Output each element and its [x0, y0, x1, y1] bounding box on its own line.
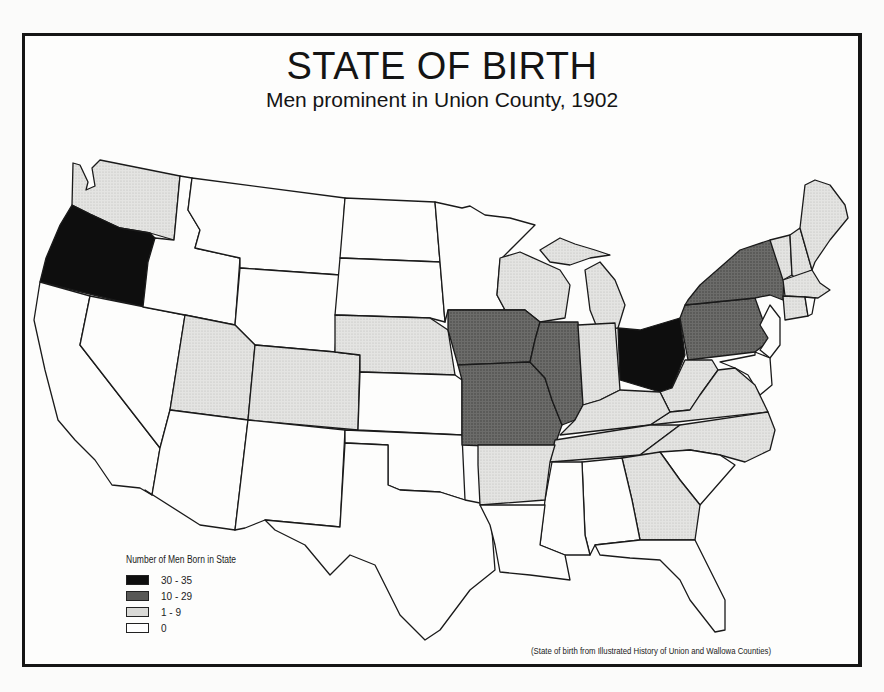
legend: Number of Men Born in State 30 - 35 10 -…: [126, 554, 256, 636]
state-colorado: [248, 345, 360, 430]
state-florida: [595, 540, 725, 632]
legend-label: 1 - 9: [161, 607, 181, 618]
legend-item-0: 0: [126, 620, 256, 636]
legend-label: 0: [161, 623, 167, 634]
state-new-york: [685, 240, 785, 305]
map-subtitle: Men prominent in Union County, 1902: [0, 88, 884, 112]
state-michigan: [585, 262, 625, 330]
state-south-dakota: [335, 258, 445, 322]
state-connecticut: [783, 296, 808, 320]
legend-swatch-dark: [126, 591, 149, 601]
source-note: (State of birth from Illustrated History…: [531, 645, 771, 656]
state-iowa: [448, 310, 540, 365]
state-north-dakota: [340, 198, 440, 262]
legend-label: 30 - 35: [161, 575, 192, 586]
legend-swatch-white: [126, 623, 149, 633]
legend-title: Number of Men Born in State: [126, 554, 236, 565]
legend-item-10-29: 10 - 29: [126, 588, 256, 604]
state-wyoming: [235, 268, 340, 352]
map-title: STATE OF BIRTH: [0, 45, 884, 88]
state-new-mexico: [235, 420, 345, 530]
legend-label: 10 - 29: [161, 591, 192, 602]
legend-swatch-light: [126, 607, 149, 617]
state-kansas: [358, 372, 462, 435]
legend-swatch-black: [126, 575, 149, 585]
state-michigan-up: [540, 238, 610, 265]
state-pennsylvania: [680, 298, 770, 360]
legend-item-1-9: 1 - 9: [126, 604, 256, 620]
legend-item-30-35: 30 - 35: [126, 572, 256, 588]
state-arkansas: [478, 445, 555, 505]
